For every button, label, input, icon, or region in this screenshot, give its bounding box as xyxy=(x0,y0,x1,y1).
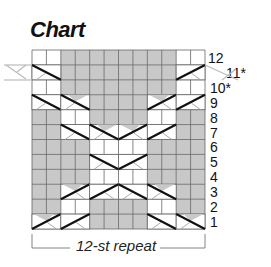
knit-cell xyxy=(162,110,176,125)
purl-cell xyxy=(176,140,190,155)
purl-cell xyxy=(147,50,161,65)
cable-tail-left xyxy=(4,65,32,80)
purl-cell xyxy=(32,125,46,140)
row-label: 3 xyxy=(210,184,218,200)
purl-cell xyxy=(61,154,75,169)
purl-cell xyxy=(191,110,205,125)
knit-cell xyxy=(32,50,46,65)
row-label: 11* xyxy=(226,65,247,81)
knit-cell xyxy=(75,110,89,125)
purl-cell xyxy=(46,184,60,199)
knit-cell xyxy=(104,169,118,184)
purl-cell xyxy=(61,65,75,80)
repeat-label: 12-st repeat xyxy=(72,237,160,254)
row-label: 6 xyxy=(210,139,218,155)
row-label: 9 xyxy=(210,95,218,111)
knit-cell xyxy=(32,80,46,95)
purl-cell xyxy=(104,80,118,95)
purl-cell xyxy=(191,140,205,155)
purl-cell xyxy=(162,169,176,184)
purl-cell xyxy=(104,110,118,125)
purl-cell xyxy=(176,199,190,214)
purl-cell xyxy=(119,65,133,80)
purl-cell xyxy=(46,154,60,169)
purl-cell xyxy=(133,80,147,95)
purl-cell xyxy=(32,154,46,169)
purl-cell xyxy=(32,199,46,214)
row-label: 8 xyxy=(210,110,218,126)
purl-cell xyxy=(90,95,104,110)
purl-cell xyxy=(32,169,46,184)
purl-cell xyxy=(61,80,75,95)
purl-cell xyxy=(46,125,60,140)
knit-cell xyxy=(46,50,60,65)
row-label: 2 xyxy=(210,199,218,215)
purl-cell xyxy=(147,169,161,184)
purl-cell xyxy=(176,125,190,140)
row-number-labels: 12345678910*11*12 xyxy=(208,50,247,230)
purl-cell xyxy=(104,95,118,110)
purl-cell xyxy=(119,50,133,65)
purl-cell xyxy=(75,154,89,169)
knit-cell xyxy=(61,110,75,125)
purl-cell xyxy=(46,199,60,214)
purl-cell xyxy=(191,199,205,214)
purl-cell xyxy=(32,140,46,155)
purl-cell xyxy=(119,95,133,110)
purl-cell xyxy=(104,50,118,65)
knit-cell xyxy=(133,169,147,184)
knit-cell xyxy=(75,199,89,214)
purl-cell xyxy=(147,154,161,169)
purl-cell xyxy=(119,110,133,125)
purl-cell xyxy=(147,140,161,155)
purl-cell xyxy=(75,140,89,155)
purl-cell xyxy=(162,80,176,95)
knit-cell xyxy=(90,169,104,184)
purl-cell xyxy=(46,169,60,184)
knitting-chart-grid: 12345678910*11*12 xyxy=(0,0,271,267)
purl-cell xyxy=(32,184,46,199)
purl-cell xyxy=(191,169,205,184)
purl-cell xyxy=(61,140,75,155)
purl-cell xyxy=(176,184,190,199)
purl-cell xyxy=(75,65,89,80)
purl-cell xyxy=(75,169,89,184)
row-label: 12 xyxy=(208,50,224,66)
purl-cell xyxy=(119,80,133,95)
purl-cell xyxy=(104,65,118,80)
row-label: 4 xyxy=(210,169,218,185)
knit-cell xyxy=(104,140,118,155)
purl-cell xyxy=(191,125,205,140)
knit-cell xyxy=(119,169,133,184)
purl-cell xyxy=(104,214,118,229)
purl-cell xyxy=(75,50,89,65)
purl-cell xyxy=(90,199,104,214)
purl-cell xyxy=(162,154,176,169)
purl-cell xyxy=(90,50,104,65)
purl-cell xyxy=(75,80,89,95)
purl-cell xyxy=(133,50,147,65)
purl-cell xyxy=(119,214,133,229)
purl-cell xyxy=(61,169,75,184)
purl-cell xyxy=(176,110,190,125)
row-label: 5 xyxy=(210,154,218,170)
purl-cell xyxy=(162,50,176,65)
purl-cell xyxy=(147,80,161,95)
purl-cell xyxy=(191,184,205,199)
knit-cell xyxy=(176,50,190,65)
purl-cell xyxy=(133,199,147,214)
purl-cell xyxy=(191,154,205,169)
knit-cell xyxy=(176,80,190,95)
purl-cell xyxy=(90,65,104,80)
purl-cell xyxy=(162,140,176,155)
knit-cell xyxy=(133,140,147,155)
purl-cell xyxy=(133,95,147,110)
knit-cell xyxy=(61,199,75,214)
purl-cell xyxy=(46,110,60,125)
purl-cell xyxy=(133,214,147,229)
knit-cell xyxy=(191,50,205,65)
purl-cell xyxy=(176,169,190,184)
row-label: 7 xyxy=(210,125,218,141)
row-label: 1 xyxy=(210,214,218,230)
purl-cell xyxy=(147,65,161,80)
